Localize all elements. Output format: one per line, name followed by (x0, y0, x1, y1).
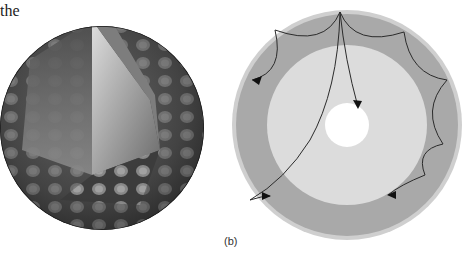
figure-canvas (0, 0, 463, 255)
figure-caption-b: (b) (224, 235, 237, 247)
disk-cross-section (232, 10, 462, 240)
core (325, 103, 369, 147)
sphere-figure (0, 18, 204, 230)
